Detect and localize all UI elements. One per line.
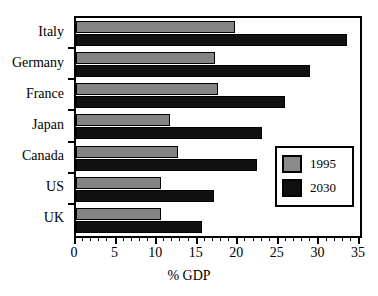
x-axis-tick-major [277, 236, 279, 244]
x-axis-tick-minor [334, 236, 335, 241]
x-axis-tick-major [196, 236, 198, 244]
x-axis-tick-minor [293, 236, 294, 241]
bar-france-1995 [76, 83, 218, 95]
x-axis-tick-minor [350, 236, 351, 241]
x-axis-tick-major [236, 236, 238, 244]
legend-label-2030: 2030 [310, 181, 336, 195]
bar-japan-2030 [76, 127, 262, 139]
bar-uk-1995 [76, 208, 161, 220]
y-axis-label-japan: Japan [32, 118, 64, 132]
legend-label-1995: 1995 [310, 157, 336, 171]
y-axis-label-us: US [46, 180, 64, 194]
x-axis-tick-minor [253, 236, 254, 241]
legend-item-2030: 2030 [282, 176, 347, 200]
x-axis-tick-labels: 05101520253035 [74, 245, 358, 261]
plot-area: 1995 2030 [74, 16, 362, 238]
x-axis-tick-minor [147, 236, 148, 241]
x-axis-tick-label-15: 15 [189, 245, 203, 261]
bar-group-germany [76, 49, 360, 80]
y-axis-label-uk: UK [44, 211, 64, 225]
y-axis-label-france: France [26, 87, 64, 101]
x-axis-tick-minor [163, 236, 164, 241]
x-axis-tick-minor [220, 236, 221, 241]
bar-canada-2030 [76, 159, 257, 171]
x-axis-tick-label-10: 10 [148, 245, 162, 261]
x-axis-tick-label-30: 30 [310, 245, 324, 261]
x-axis-tick-minor [244, 236, 245, 241]
x-axis-tick-minor [106, 236, 107, 241]
x-axis-tick-minor [188, 236, 189, 241]
x-axis-tick-minor [301, 236, 302, 241]
bar-group-italy [76, 18, 360, 49]
bar-uk-2030 [76, 221, 202, 233]
x-axis-tick-minor [123, 236, 124, 241]
x-axis-tick-minor [269, 236, 270, 241]
y-axis-label-italy: Italy [38, 25, 64, 39]
y-axis-label-canada: Canada [22, 149, 64, 163]
x-axis-tick-label-0: 0 [71, 245, 78, 261]
x-axis-tick-label-20: 20 [229, 245, 243, 261]
bar-italy-1995 [76, 21, 235, 33]
bar-us-2030 [76, 190, 214, 202]
bar-group-uk [76, 205, 360, 236]
x-axis-tick-major [317, 236, 319, 244]
y-axis-category-labels: ItalyGermanyFranceJapanCanadaUSUK [0, 16, 68, 234]
bar-chart: ItalyGermanyFranceJapanCanadaUSUK 1995 2… [0, 0, 378, 296]
x-axis-tick-minor [131, 236, 132, 241]
x-axis-tick-major [358, 236, 360, 244]
bar-group-japan [76, 111, 360, 142]
bar-italy-2030 [76, 34, 347, 46]
x-axis-tick-minor [179, 236, 180, 241]
gray-swatch-icon [282, 155, 302, 173]
y-axis-label-germany: Germany [12, 56, 64, 70]
x-axis-tick-label-5: 5 [111, 245, 118, 261]
x-axis-tick-minor [228, 236, 229, 241]
x-axis-tick-minor [326, 236, 327, 241]
bar-group-france [76, 80, 360, 111]
bar-germany-1995 [76, 52, 215, 64]
x-axis-tick-minor [212, 236, 213, 241]
x-axis-tick-minor [342, 236, 343, 241]
x-axis-tick-minor [309, 236, 310, 241]
bar-canada-1995 [76, 146, 178, 158]
bar-france-2030 [76, 96, 285, 108]
x-axis-tick-major [155, 236, 157, 244]
x-axis-tick-label-25: 25 [270, 245, 284, 261]
chart-legend: 1995 2030 [275, 146, 354, 207]
x-axis-tick-label-35: 35 [351, 245, 365, 261]
x-axis-title: % GDP [0, 268, 378, 284]
x-axis-tick-minor [139, 236, 140, 241]
bar-japan-1995 [76, 114, 170, 126]
x-axis-tick-minor [285, 236, 286, 241]
x-axis-tick-major [115, 236, 117, 244]
x-axis-tick-minor [171, 236, 172, 241]
black-swatch-icon [282, 179, 302, 197]
x-axis-tick-minor [98, 236, 99, 241]
legend-item-1995: 1995 [282, 152, 347, 176]
bar-us-1995 [76, 177, 161, 189]
x-axis-tick-minor [82, 236, 83, 241]
bar-germany-2030 [76, 65, 310, 77]
x-axis-tick-minor [90, 236, 91, 241]
x-axis-tick-minor [261, 236, 262, 241]
x-axis-tick-major [74, 236, 76, 244]
x-axis-tick-minor [204, 236, 205, 241]
x-axis-ticks [74, 236, 358, 245]
